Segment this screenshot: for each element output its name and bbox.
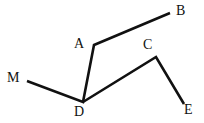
- vertex-label-e: E: [184, 103, 193, 117]
- geometry-figure: M A B C D E: [0, 0, 204, 123]
- vertex-label-b: B: [176, 4, 185, 18]
- vertex-label-m: M: [7, 71, 19, 85]
- vertex-label-a: A: [74, 37, 84, 51]
- figure-background: [0, 0, 204, 123]
- vertex-label-d: D: [74, 105, 84, 119]
- vertex-label-c: C: [143, 38, 152, 52]
- figure-canvas: [0, 0, 204, 123]
